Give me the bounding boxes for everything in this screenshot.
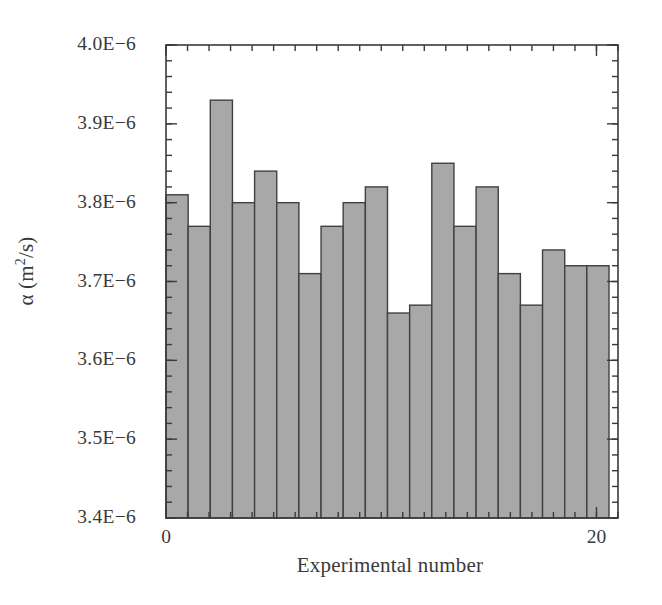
bar (343, 203, 365, 518)
bar (210, 100, 232, 518)
bar (565, 266, 587, 518)
bar (520, 305, 542, 518)
bar-series (166, 100, 609, 518)
chart-figure: α (m2/s) Experimental number 3.4E−63.5E−… (0, 0, 662, 605)
bar (299, 274, 321, 518)
plot-area (0, 0, 662, 605)
bar (232, 203, 254, 518)
bar (543, 250, 565, 518)
bar (432, 163, 454, 518)
bar (498, 274, 520, 518)
bar (410, 305, 432, 518)
bar (587, 266, 609, 518)
bar (277, 203, 299, 518)
bar (321, 226, 343, 518)
bar (255, 171, 277, 518)
bar (388, 313, 410, 518)
bar (454, 226, 476, 518)
bar (188, 226, 210, 518)
bar (365, 187, 387, 518)
bar (476, 187, 498, 518)
bar (166, 195, 188, 518)
